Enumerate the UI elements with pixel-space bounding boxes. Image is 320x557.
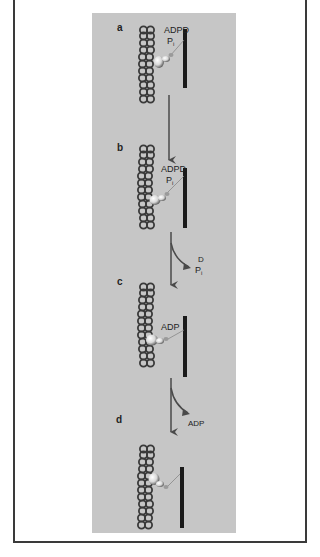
nucleotide-label-adpd: ADPD bbox=[161, 164, 187, 174]
thick-filament-bar bbox=[180, 467, 184, 528]
panel-label-b: b bbox=[117, 142, 123, 153]
thick-filament-bar bbox=[183, 316, 187, 377]
nucleotide-label-pi: Pi bbox=[166, 175, 173, 186]
released-pi-label: Pi bbox=[195, 265, 202, 276]
panel-d: d bbox=[116, 414, 184, 529]
transition-arrow-b-c: D Pi bbox=[171, 232, 204, 285]
actin-filament bbox=[138, 145, 154, 228]
myosin-head bbox=[149, 473, 181, 489]
actin-filament bbox=[138, 445, 154, 528]
released-adp-label: ADP bbox=[188, 419, 204, 428]
panel-label-c: c bbox=[117, 276, 123, 287]
nucleotide-label-pi: Pi bbox=[167, 36, 174, 47]
actin-filament bbox=[139, 26, 154, 102]
transition-arrow-c-d: ADP bbox=[171, 378, 204, 432]
panel-c: c ADP bbox=[117, 276, 187, 377]
panel-label-d: d bbox=[116, 414, 122, 425]
panel-label-a: a bbox=[117, 22, 123, 33]
nucleotide-label-adp: ADP bbox=[161, 322, 180, 332]
panel-a: a ADPD Pi bbox=[117, 22, 190, 103]
thick-filament-bar bbox=[183, 29, 187, 88]
nucleotide-label-adpd: ADPD bbox=[164, 25, 190, 35]
actin-filament bbox=[138, 283, 154, 366]
panel-b: b ADPD Pi bbox=[117, 142, 187, 229]
cross-bridge-cycle-diagram: a ADPD Pi b bbox=[0, 0, 320, 557]
released-phosphate-box: D bbox=[198, 255, 204, 264]
thick-filament-bar bbox=[183, 168, 187, 228]
